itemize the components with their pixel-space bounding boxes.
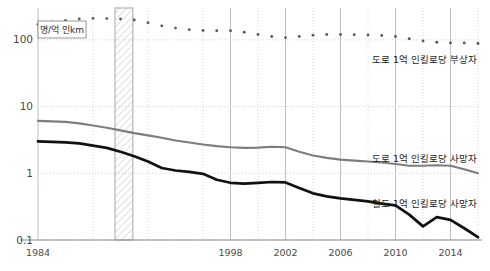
- shaded-band: [115, 8, 133, 240]
- x-axis-tick-labels: 198419982002200620102014: [26, 247, 463, 258]
- x-tick-label: 2002: [273, 247, 297, 258]
- x-tick-label: 1998: [218, 247, 242, 258]
- data-series: [37, 17, 480, 237]
- line-chart: 1001010.1 198419982002200620102014: [0, 0, 490, 271]
- x-tick-label: 2014: [438, 247, 462, 258]
- y-tick-label: 10: [20, 100, 33, 112]
- x-tick-label: 2006: [328, 247, 352, 258]
- y-axis-tick-labels: 1001010.1: [13, 33, 33, 245]
- chart-container: 1001010.1 198419982002200620102014 명/억 인…: [0, 0, 490, 271]
- x-tick-label: 2010: [383, 247, 407, 258]
- x-tick-label: 1984: [26, 247, 50, 258]
- y-tick-label: 1: [26, 167, 33, 179]
- y-tick-label: 100: [13, 33, 33, 45]
- y-tick-label: 0.1: [16, 234, 33, 246]
